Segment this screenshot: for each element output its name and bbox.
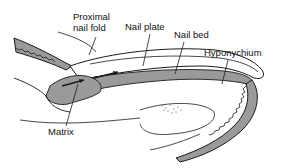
nail-anatomy-diagram: Proximal nail fold Nail plate Nail bed H… [0, 0, 282, 168]
label-matrix: Matrix [48, 127, 74, 137]
label-proximal-nail-fold-line2: nail fold [73, 23, 106, 33]
label-nail-bed: Nail bed [174, 30, 209, 40]
proximal-nail-fold-shape [14, 38, 72, 70]
label-hyponychium: Hyponychium [204, 48, 262, 58]
label-nail-plate: Nail plate [125, 22, 165, 32]
phalanx-outline [140, 103, 215, 134]
stippling [161, 104, 181, 113]
label-proximal-nail-fold-line1: Proximal [73, 12, 110, 22]
